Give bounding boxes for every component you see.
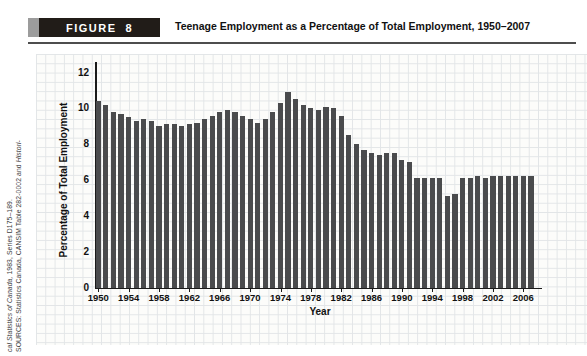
bar-series xyxy=(95,63,545,288)
x-tick-label-1966: 1966 xyxy=(203,292,237,303)
bar-1953 xyxy=(118,114,123,288)
bar-1993 xyxy=(422,178,427,287)
bar-1952 xyxy=(111,112,116,288)
bar-1964 xyxy=(202,119,207,287)
bar-2007 xyxy=(528,176,533,287)
figure-number-label: 8 xyxy=(125,22,133,34)
bar-1954 xyxy=(126,117,131,287)
y-tick-label-6: 6 xyxy=(63,174,89,185)
bar-1972 xyxy=(263,119,268,287)
bar-1982 xyxy=(339,116,344,288)
bar-1968 xyxy=(232,112,237,288)
x-tick-label-1998: 1998 xyxy=(446,292,480,303)
bar-2000 xyxy=(475,176,480,287)
bar-1963 xyxy=(194,123,199,288)
bar-1973 xyxy=(270,112,275,288)
x-tick-label-2002: 2002 xyxy=(476,292,510,303)
bar-1960 xyxy=(172,124,177,287)
bar-1985 xyxy=(361,150,366,288)
y-tick-label-0: 0 xyxy=(63,282,89,293)
bar-1987 xyxy=(377,155,382,288)
x-tick-label-1974: 1974 xyxy=(264,292,298,303)
bar-1955 xyxy=(134,121,139,288)
x-tick-label-1986: 1986 xyxy=(355,292,389,303)
bar-1967 xyxy=(225,110,230,287)
bar-1962 xyxy=(187,124,192,287)
bar-1997 xyxy=(452,194,457,287)
bar-1995 xyxy=(437,178,442,287)
bar-2001 xyxy=(483,178,488,287)
y-tick-label-12: 12 xyxy=(63,67,89,78)
y-tick-label-10: 10 xyxy=(63,102,89,113)
bar-1988 xyxy=(384,153,389,287)
bar-2002 xyxy=(490,176,495,287)
figure-accent-square xyxy=(28,18,39,37)
bar-1966 xyxy=(217,112,222,288)
figure-number-box: FIGURE 8 xyxy=(39,18,160,37)
source-note-line1: SOURCES: Statistics Canada, CANSIM Table… xyxy=(15,60,24,352)
bar-1983 xyxy=(346,135,351,287)
bar-1969 xyxy=(240,116,245,288)
figure-panel: FIGURE 8 Teenage Employment as a Percent… xyxy=(0,0,587,356)
bar-1984 xyxy=(354,144,359,287)
x-tick-label-1950: 1950 xyxy=(81,292,115,303)
y-tick-label-8: 8 xyxy=(63,138,89,149)
bar-1989 xyxy=(392,153,397,287)
x-axis-title: Year xyxy=(98,306,542,317)
bar-2004 xyxy=(506,176,511,287)
source-note-line2: cal Statistics of Canada, 1983, Series D… xyxy=(6,60,15,352)
bar-1996 xyxy=(445,196,450,287)
x-tick-label-1970: 1970 xyxy=(233,292,267,303)
y-tick-label-4: 4 xyxy=(63,210,89,221)
x-tick-label-1978: 1978 xyxy=(294,292,328,303)
bar-1970 xyxy=(248,119,253,287)
bar-1971 xyxy=(255,123,260,288)
bar-1998 xyxy=(460,178,465,287)
x-tick-label-2006: 2006 xyxy=(506,292,540,303)
figure-title: Teenage Employment as a Percentage of To… xyxy=(175,20,575,32)
bar-1981 xyxy=(331,108,336,287)
bar-1976 xyxy=(293,99,298,287)
bar-1956 xyxy=(141,119,146,287)
bar-1977 xyxy=(301,105,306,288)
bar-1991 xyxy=(407,162,412,287)
x-tick-label-1994: 1994 xyxy=(415,292,449,303)
bar-1980 xyxy=(323,107,328,288)
x-tick-label-1990: 1990 xyxy=(385,292,419,303)
x-tick-label-1962: 1962 xyxy=(172,292,206,303)
bar-1959 xyxy=(164,124,169,287)
bar-2005 xyxy=(513,176,518,287)
bar-1979 xyxy=(316,110,321,287)
bar-1975 xyxy=(285,92,290,287)
x-tick-label-1954: 1954 xyxy=(112,292,146,303)
bar-1965 xyxy=(210,116,215,288)
x-tick-label-1958: 1958 xyxy=(142,292,176,303)
bar-1986 xyxy=(369,153,374,287)
x-axis-line xyxy=(95,288,542,290)
bar-1990 xyxy=(399,160,404,287)
source-note: cal Statistics of Canada, 1983, Series D… xyxy=(6,60,23,352)
bar-1961 xyxy=(179,126,184,287)
bar-1992 xyxy=(414,178,419,287)
x-tick-label-1982: 1982 xyxy=(324,292,358,303)
bar-1994 xyxy=(430,178,435,287)
header-rule xyxy=(28,42,576,44)
y-tick-label-2: 2 xyxy=(63,246,89,257)
bar-1999 xyxy=(468,178,473,287)
bar-1978 xyxy=(308,108,313,287)
bar-1957 xyxy=(149,121,154,288)
bar-2003 xyxy=(498,176,503,287)
bar-1950 xyxy=(96,101,101,287)
bar-1951 xyxy=(103,105,108,288)
bar-1974 xyxy=(278,103,283,288)
bar-2006 xyxy=(521,176,526,287)
bar-1958 xyxy=(156,126,161,287)
figure-word-label: FIGURE xyxy=(66,22,117,34)
